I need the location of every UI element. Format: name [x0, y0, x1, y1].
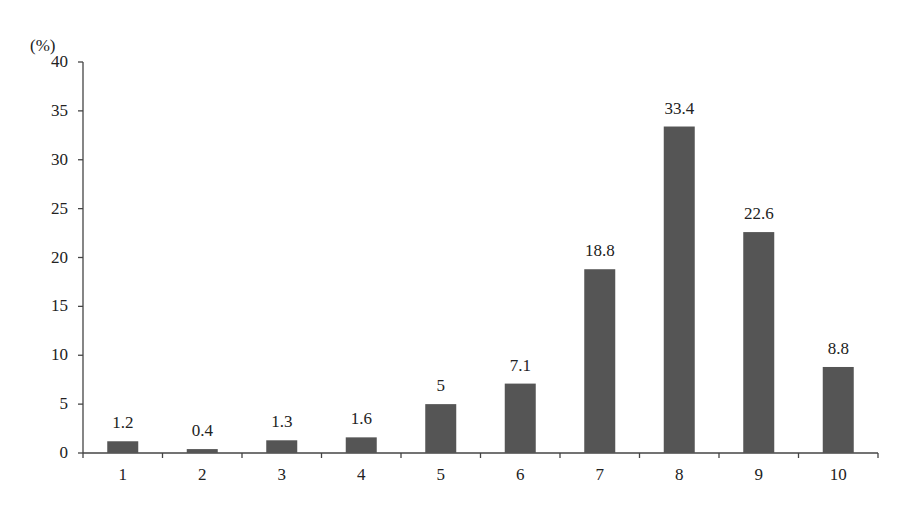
value-label: 1.2 [93, 414, 153, 432]
x-tick-label: 5 [421, 466, 461, 484]
bar-8 [664, 127, 695, 453]
y-tick-label: 35 [38, 102, 68, 120]
value-label: 1.6 [331, 410, 391, 428]
y-tick-label: 30 [38, 151, 68, 169]
value-label: 22.6 [729, 205, 789, 223]
y-tick-label: 0 [38, 444, 68, 462]
bar-9 [743, 232, 774, 453]
bar-6 [505, 384, 536, 453]
bar-1 [107, 441, 138, 453]
bar-10 [823, 367, 854, 453]
value-label: 1.3 [252, 413, 312, 431]
x-tick-label: 9 [739, 466, 779, 484]
bar-7 [584, 269, 615, 453]
bar-4 [346, 437, 377, 453]
x-tick-label: 10 [818, 466, 858, 484]
value-label: 7.1 [490, 357, 550, 375]
bar-chart: (%) 05101520253035401.210.421.331.64557.… [0, 0, 909, 530]
bar-3 [266, 440, 297, 453]
bar-2 [187, 449, 218, 453]
y-tick-label: 20 [38, 249, 68, 267]
y-tick-label: 15 [38, 297, 68, 315]
x-tick-label: 6 [500, 466, 540, 484]
y-tick-label: 5 [38, 395, 68, 413]
value-label: 18.8 [570, 242, 630, 260]
x-tick-label: 3 [262, 466, 302, 484]
x-tick-label: 2 [182, 466, 222, 484]
value-label: 8.8 [808, 340, 868, 358]
y-tick-label: 40 [38, 53, 68, 71]
value-label: 33.4 [649, 100, 709, 118]
y-tick-label: 10 [38, 346, 68, 364]
value-label: 0.4 [172, 422, 232, 440]
bar-5 [425, 404, 456, 453]
plot-area [0, 0, 909, 530]
y-tick-label: 25 [38, 200, 68, 218]
x-tick-label: 1 [103, 466, 143, 484]
x-tick-label: 4 [341, 466, 381, 484]
x-tick-label: 8 [659, 466, 699, 484]
value-label: 5 [411, 377, 471, 395]
x-tick-label: 7 [580, 466, 620, 484]
